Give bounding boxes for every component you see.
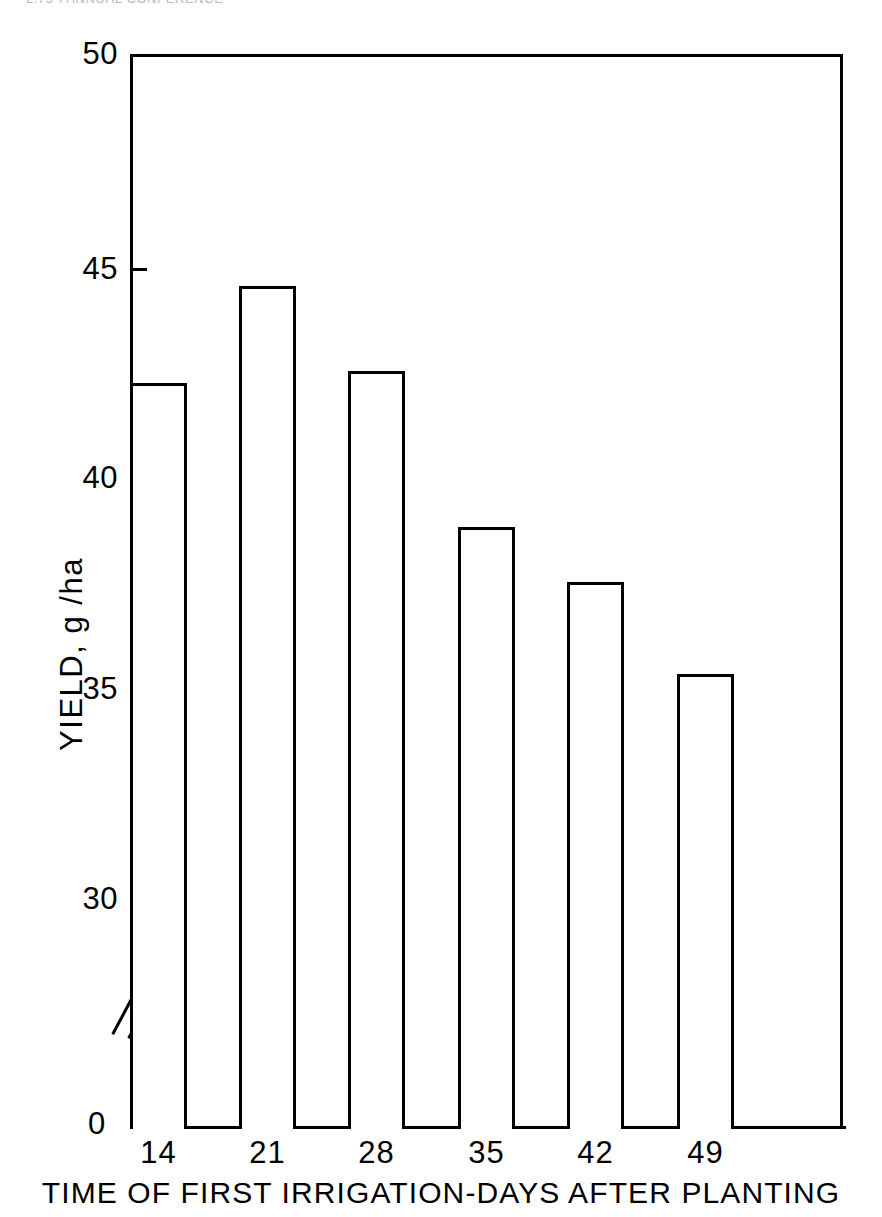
running-header: 2,75 ) ANNUAL CONFERENCE — [26, 0, 223, 3]
x-tick-label-35: 35 — [456, 1136, 517, 1170]
bar-28 — [348, 371, 405, 1130]
figure-canvas: 2,75 ) ANNUAL CONFERENCE 50 45 40 35 30 … — [0, 0, 882, 1217]
y-tick-mark-45 — [130, 268, 147, 271]
bar-42 — [567, 582, 624, 1130]
x-tick-label-49: 49 — [675, 1136, 736, 1170]
y-tick-label-40: 40 — [48, 462, 118, 493]
x-tick-label-28: 28 — [346, 1136, 407, 1170]
y-axis-title: YIELD, g /ha — [54, 504, 90, 804]
bar-14 — [130, 383, 187, 1129]
plot-frame-right-edge — [840, 54, 843, 1128]
x-tick-label-21: 21 — [237, 1136, 298, 1170]
x-axis-title: TIME OF FIRST IRRIGATION-DAYS AFTER PLAN… — [0, 1176, 882, 1210]
y-tick-label-45: 45 — [48, 253, 118, 284]
x-tick-label-42: 42 — [565, 1136, 626, 1170]
bar-49 — [677, 674, 734, 1129]
plot-frame-top-edge — [130, 54, 843, 57]
x-tick-label-14: 14 — [128, 1136, 189, 1170]
y-tick-label-0: 0 — [88, 1108, 105, 1139]
bar-21 — [239, 286, 296, 1129]
y-tick-label-30: 30 — [48, 883, 118, 914]
bar-35 — [458, 527, 515, 1129]
y-tick-label-50: 50 — [48, 38, 118, 69]
